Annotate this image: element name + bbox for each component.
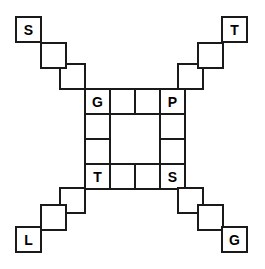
ring-cell-ring-r3c2[interactable] — [135, 164, 160, 189]
arm-cell-arm-br-2[interactable] — [198, 205, 223, 230]
ring-cell-ring-r0c1[interactable] — [110, 89, 135, 114]
ring-cell-ring-r0c2[interactable] — [135, 89, 160, 114]
arm-cell-arm-tl-2[interactable] — [41, 43, 66, 68]
arm-cell-arm-tr-2[interactable] — [198, 43, 223, 68]
ring-cell-ring-r2c0[interactable] — [85, 139, 110, 164]
ring-cell-ring-r1c3[interactable] — [160, 114, 185, 139]
ring-label-s-ring-r3c3: S — [168, 169, 177, 185]
ring-label-t-ring-r3c0: T — [93, 169, 102, 185]
terminal-label-t-arm-top-right: T — [230, 22, 239, 38]
ring-label-g-ring-r0c0: G — [92, 94, 103, 110]
ring-cell-ring-r2c3[interactable] — [160, 139, 185, 164]
terminal-label-g-arm-bottom-right: G — [229, 232, 240, 248]
ring-cell-ring-r1c0[interactable] — [85, 114, 110, 139]
arm-cell-arm-bl-2[interactable] — [41, 205, 66, 230]
grid-diagram: GPTSSTLG — [0, 0, 265, 269]
diagonal-arms — [16, 17, 247, 252]
terminal-label-s-arm-top-left: S — [24, 22, 33, 38]
terminal-label-l-arm-bottom-left: L — [24, 232, 33, 248]
ring-cell-ring-r3c1[interactable] — [110, 164, 135, 189]
diagram-canvas: GPTSSTLG — [0, 0, 265, 269]
ring-label-p-ring-r0c3: P — [168, 94, 177, 110]
